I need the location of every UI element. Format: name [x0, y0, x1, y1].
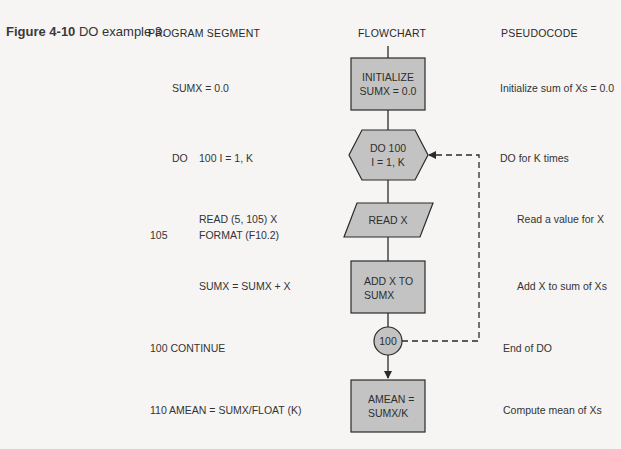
- node-do-loop: DO 100 I = 1, K: [349, 130, 428, 180]
- pseudocode-line: DO for K times: [500, 152, 569, 164]
- node-continue: 100: [374, 327, 402, 355]
- node-text: INITIALIZE: [362, 71, 414, 83]
- node-text: SUMX/K: [368, 407, 408, 419]
- node-read: READ X: [344, 203, 433, 237]
- node-text: ADD X TO: [364, 275, 413, 287]
- pseudocode-line: End of DO: [503, 342, 552, 354]
- node-text: AMEAN =: [368, 393, 414, 405]
- process-box: [351, 58, 425, 110]
- node-text: READ X: [368, 214, 407, 226]
- node-text: I = 1, K: [371, 156, 405, 168]
- pseudocode-line: Read a value for X: [517, 213, 604, 225]
- pseudocode-line: Initialize sum of Xs = 0.0: [500, 82, 614, 94]
- pseudocode-line: Add X to sum of Xs: [517, 280, 607, 292]
- node-text: DO 100: [370, 142, 406, 154]
- preparation-hexagon: [349, 130, 428, 180]
- node-add: ADD X TO SUMX: [351, 261, 425, 313]
- process-box: [351, 261, 425, 313]
- node-text: SUMX: [364, 289, 394, 301]
- process-box: [351, 380, 425, 432]
- node-text: 100: [379, 335, 397, 347]
- node-text: SUMX = 0.0: [360, 85, 417, 97]
- node-mean: AMEAN = SUMX/K: [351, 380, 425, 432]
- pseudocode-line: Compute mean of Xs: [503, 404, 602, 416]
- node-initialize: INITIALIZE SUMX = 0.0: [351, 58, 425, 110]
